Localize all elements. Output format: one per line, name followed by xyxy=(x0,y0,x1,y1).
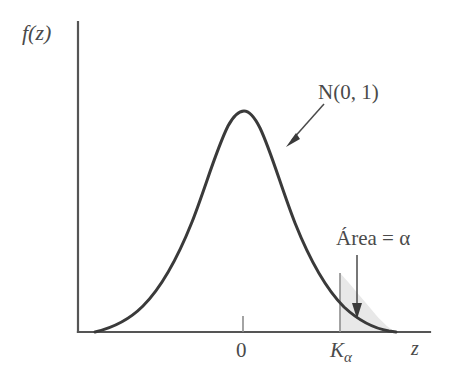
distribution-plot-canvas xyxy=(0,0,459,373)
k-alpha-subscript: α xyxy=(344,349,352,365)
k-alpha-main: K xyxy=(330,338,344,362)
x-axis-label: z xyxy=(411,338,419,358)
n01-annotation-arrow xyxy=(286,104,324,147)
curve-label-n01: N(0, 1) xyxy=(318,82,379,103)
x-tick-label-k-alpha: Kα xyxy=(330,340,352,365)
y-axis-label: f(z) xyxy=(22,22,51,44)
area-annotation-label: Área = α xyxy=(336,228,410,249)
x-tick-label-zero: 0 xyxy=(236,340,247,361)
normal-distribution-figure: f(z) N(0, 1) Área = α 0 Kα z xyxy=(0,0,459,373)
